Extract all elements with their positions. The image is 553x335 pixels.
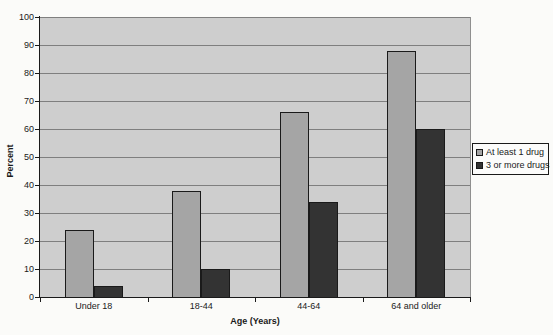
bar bbox=[172, 191, 201, 297]
y-tick-10 bbox=[35, 269, 39, 270]
y-tick-20 bbox=[35, 241, 39, 242]
category-label: 64 and older bbox=[363, 301, 471, 311]
y-tick-60 bbox=[35, 129, 39, 130]
y-tick-label-80: 80 bbox=[12, 68, 34, 78]
bar bbox=[387, 51, 416, 297]
x-axis-title: Age (Years) bbox=[40, 316, 470, 326]
gridline-100 bbox=[40, 17, 470, 18]
y-tick-30 bbox=[35, 213, 39, 214]
bar bbox=[416, 129, 445, 297]
gridline-90 bbox=[40, 45, 470, 46]
legend-item: At least 1 drug bbox=[476, 147, 545, 157]
bar bbox=[65, 230, 94, 297]
y-tick-label-90: 90 bbox=[12, 40, 34, 50]
y-tick-label-50: 50 bbox=[12, 152, 34, 162]
y-tick-label-0: 0 bbox=[12, 292, 34, 302]
y-tick-80 bbox=[35, 73, 39, 74]
y-tick-label-40: 40 bbox=[12, 180, 34, 190]
bar bbox=[309, 202, 338, 297]
y-tick-label-70: 70 bbox=[12, 96, 34, 106]
bar bbox=[201, 269, 230, 297]
legend-swatch-icon bbox=[476, 162, 483, 169]
plot-area bbox=[40, 17, 471, 297]
category-label: 18-44 bbox=[148, 301, 256, 311]
bar bbox=[94, 286, 123, 297]
y-axis-line bbox=[39, 16, 40, 298]
y-tick-40 bbox=[35, 185, 39, 186]
legend-label: At least 1 drug bbox=[486, 147, 544, 157]
legend-item: 3 or more drugs bbox=[476, 160, 545, 170]
y-tick-label-20: 20 bbox=[12, 236, 34, 246]
legend: At least 1 drug3 or more drugs bbox=[472, 143, 549, 175]
category-label: 44-64 bbox=[255, 301, 363, 311]
x-axis-boundary-tick bbox=[470, 298, 471, 302]
y-tick-label-10: 10 bbox=[12, 264, 34, 274]
legend-label: 3 or more drugs bbox=[486, 160, 550, 170]
y-tick-70 bbox=[35, 101, 39, 102]
bar bbox=[280, 112, 309, 297]
legend-swatch-icon bbox=[476, 149, 483, 156]
category-label: Under 18 bbox=[40, 301, 148, 311]
y-tick-0 bbox=[35, 297, 39, 298]
y-tick-50 bbox=[35, 157, 39, 158]
y-tick-label-100: 100 bbox=[12, 12, 34, 22]
y-tick-label-60: 60 bbox=[12, 124, 34, 134]
chart-container: Percent Age (Years) At least 1 drug3 or … bbox=[0, 0, 553, 335]
y-tick-100 bbox=[35, 17, 39, 18]
y-tick-90 bbox=[35, 45, 39, 46]
y-tick-label-30: 30 bbox=[12, 208, 34, 218]
